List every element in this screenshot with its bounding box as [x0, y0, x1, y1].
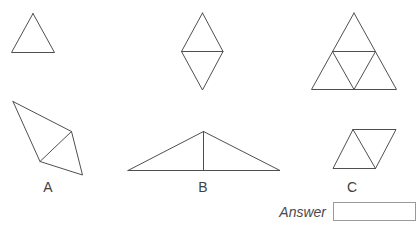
option-a-figure [13, 102, 83, 176]
large-triangle-four-parts-figure [312, 13, 397, 90]
worksheet-question: A B C Answer [0, 0, 417, 228]
option-c-label: C [344, 180, 360, 194]
answer-label: Answer [279, 204, 326, 220]
diamond-two-triangles-figure [182, 13, 224, 90]
option-c-figure [333, 130, 396, 169]
option-a-label: A [40, 180, 56, 194]
answer-input[interactable] [333, 202, 416, 221]
single-triangle-figure [12, 14, 55, 53]
option-b-label: B [195, 180, 211, 194]
option-b-figure [128, 132, 280, 171]
answer-row: Answer [279, 202, 416, 221]
